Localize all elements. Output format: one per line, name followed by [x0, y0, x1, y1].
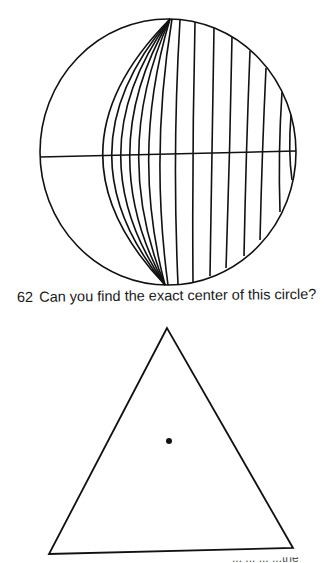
circle-illusion-figure — [0, 0, 334, 290]
figure-number: 62 — [17, 289, 33, 305]
triangle-shape — [49, 328, 293, 554]
caption-text: Can you find the exact center of this ci… — [39, 286, 316, 305]
cutoff-text: ... ... ... ...the — [232, 551, 299, 563]
center-dot — [166, 438, 172, 444]
figure-caption: 62Can you find the exact center of this … — [17, 286, 327, 305]
diameter-line — [40, 151, 296, 157]
